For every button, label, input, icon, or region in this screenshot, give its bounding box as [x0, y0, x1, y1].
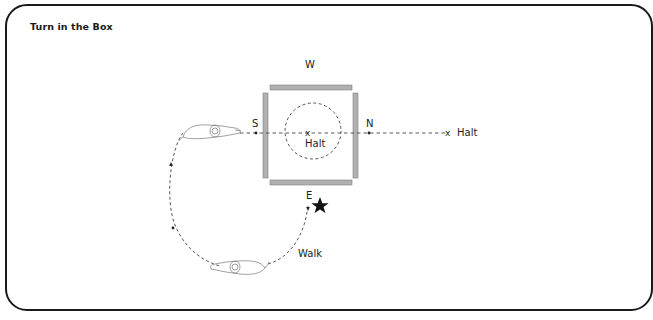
- bar-east: [270, 180, 352, 185]
- north-dot: [368, 132, 371, 135]
- box: [263, 85, 358, 185]
- label-west: W: [305, 59, 315, 70]
- south-dot: [255, 132, 258, 135]
- label-east: E: [306, 190, 312, 201]
- turn-circle: [285, 103, 341, 159]
- star-icon: [311, 197, 328, 213]
- center-x-marker: x: [305, 128, 311, 138]
- label-center-halt: Halt: [305, 138, 325, 149]
- label-north: N: [366, 118, 373, 129]
- right-x-marker: x: [445, 128, 451, 138]
- path-dot-lower-left: [172, 227, 175, 230]
- bar-south: [263, 93, 268, 178]
- walk-path: [170, 133, 308, 266]
- label-south: S: [252, 118, 258, 129]
- horse-rider-icon-upper: [179, 125, 241, 140]
- label-right-halt: Halt: [457, 127, 477, 138]
- horse-rider-icon-lower: [210, 261, 268, 275]
- bar-west: [270, 85, 352, 90]
- path-arrow-east: [306, 207, 310, 211]
- bar-north: [353, 93, 358, 178]
- label-walk: Walk: [298, 248, 322, 259]
